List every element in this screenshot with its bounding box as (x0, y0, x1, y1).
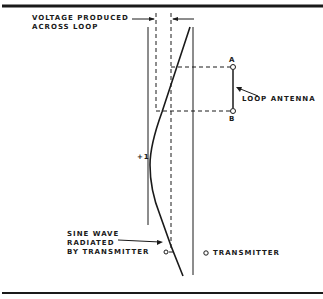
sine-label-line1: SINE WAVE (67, 230, 119, 238)
loop-antenna-diagram: VOLTAGE PRODUCED ACROSS LOOP A B LOOP AN… (0, 0, 323, 299)
transmitter-label: TRANSMITTER (213, 249, 280, 257)
voltage-label-line2: ACROSS LOOP (32, 23, 98, 31)
terminal-a-icon (231, 65, 236, 70)
arrowhead-icon (149, 17, 155, 21)
plus-one-label: +1 (137, 153, 150, 161)
voltage-label-line1: VOLTAGE PRODUCED (32, 14, 129, 22)
terminal-b-icon (231, 109, 236, 114)
sine-wave-pointer (118, 240, 160, 242)
loop-antenna-label: LOOP ANTENNA (242, 95, 316, 103)
transmitter-icon (204, 251, 208, 255)
point-b-label: B (229, 115, 235, 123)
arrowhead-icon (172, 17, 178, 21)
sine-label-line3: BY TRANSMITTER (67, 248, 149, 256)
transmitter-marker-icon (164, 250, 168, 254)
point-a-label: A (229, 56, 235, 64)
arrowhead-icon (157, 240, 163, 245)
sine-label-line2: RADIATED (67, 239, 114, 247)
